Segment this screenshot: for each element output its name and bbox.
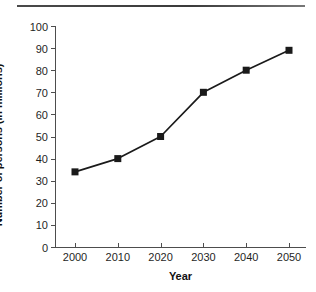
- chart-figure: 0102030405060708090100 20002010202020302…: [0, 0, 316, 292]
- data-point-marker: [243, 67, 250, 74]
- data-point-marker: [286, 47, 293, 54]
- data-point-marker: [157, 133, 164, 140]
- series-line: [75, 50, 289, 172]
- series-plot: [0, 0, 316, 292]
- data-point-marker: [114, 155, 121, 162]
- data-point-marker: [200, 89, 207, 96]
- data-point-marker: [72, 168, 79, 175]
- series-markers: [72, 47, 293, 176]
